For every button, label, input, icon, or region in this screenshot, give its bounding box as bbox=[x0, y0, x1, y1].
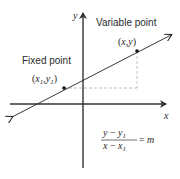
formula-numerator: y − y1 bbox=[102, 127, 126, 140]
formula-denominator: x − x1 bbox=[102, 140, 126, 153]
formula-slope-m: m bbox=[147, 134, 154, 145]
variable-point-caption: Variable point bbox=[96, 17, 157, 28]
fixed-point-coords: (x1,y1) bbox=[32, 73, 57, 86]
fixed-point-caption: Fixed point bbox=[22, 55, 71, 66]
y-axis-label: y bbox=[72, 10, 78, 21]
x-axis-label: x bbox=[163, 110, 169, 121]
point-slope-diagram: y x Variable point (x,y) Fixed point (x1… bbox=[0, 0, 180, 179]
variable-point-dot bbox=[135, 49, 139, 53]
fixed-point-dot bbox=[62, 86, 66, 90]
variable-point-coords: (x,y) bbox=[118, 36, 136, 48]
slope-formula: y − y1 x − x1 = m bbox=[101, 127, 154, 153]
formula-equals: = bbox=[139, 134, 145, 145]
